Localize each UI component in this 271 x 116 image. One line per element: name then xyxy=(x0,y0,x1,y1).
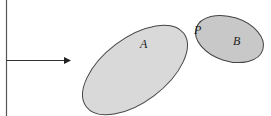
set-b-label: B xyxy=(233,34,241,48)
diagram-canvas: A B P xyxy=(0,0,271,116)
set-a-ellipse xyxy=(67,8,203,116)
set-b-ellipse xyxy=(189,7,269,70)
point-p-label: P xyxy=(193,23,202,37)
set-a-label: A xyxy=(139,37,148,51)
